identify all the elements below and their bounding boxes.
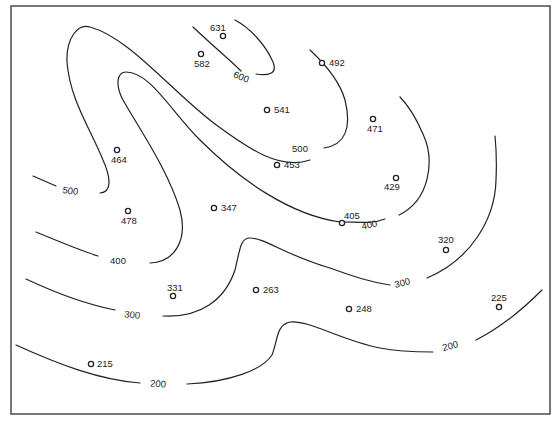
elevation-point: 331 (167, 282, 183, 299)
contour-map: 600500500400400300300200200 631582492541… (0, 0, 557, 425)
point-value-label: 215 (97, 358, 113, 369)
point-marker-icon (198, 51, 203, 56)
elevation-point: 215 (88, 358, 112, 369)
point-marker-icon (370, 116, 375, 121)
contour-label-200: 200 (441, 338, 459, 353)
contour-label-600: 600 (232, 69, 251, 85)
point-marker-icon (496, 304, 501, 309)
elevation-point: 541 (264, 104, 289, 115)
point-value-label: 429 (384, 181, 400, 192)
contour-label-400: 400 (360, 218, 378, 232)
point-value-label: 405 (344, 210, 360, 221)
point-marker-icon (339, 220, 344, 225)
elevation-point: 492 (319, 57, 344, 68)
elevation-point: 347 (211, 202, 236, 213)
point-marker-icon (125, 208, 130, 213)
elevation-point: 429 (384, 175, 400, 192)
contour-line-200 (16, 290, 542, 384)
contour-label-300: 300 (393, 275, 411, 290)
point-marker-icon (264, 107, 269, 112)
elevation-point: 405 (339, 210, 359, 226)
point-marker-icon (114, 147, 119, 152)
contour-label-300: 300 (124, 308, 141, 321)
contour-label-500: 500 (62, 184, 79, 197)
point-value-label: 492 (329, 57, 345, 68)
map-frame (11, 6, 550, 414)
contour-label-500: 500 (292, 143, 308, 154)
point-value-label: 248 (356, 303, 372, 314)
point-value-label: 225 (491, 292, 507, 303)
point-marker-icon (220, 33, 225, 38)
point-value-label: 464 (111, 154, 127, 165)
contour-label-200: 200 (150, 377, 167, 389)
point-value-label: 631 (210, 22, 226, 33)
contour-label-400: 400 (110, 255, 126, 266)
point-marker-icon (274, 162, 279, 167)
point-value-label: 347 (221, 202, 237, 213)
point-marker-icon (319, 60, 324, 65)
elevation-points: 6315824925414714644534294783474053203312… (88, 22, 506, 369)
point-value-label: 263 (263, 284, 279, 295)
point-marker-icon (253, 287, 258, 292)
elevation-point: 263 (253, 284, 278, 295)
elevation-point: 631 (210, 22, 226, 39)
elevation-point: 225 (491, 292, 507, 310)
point-value-label: 541 (274, 104, 290, 115)
point-value-label: 453 (284, 159, 300, 170)
point-marker-icon (170, 293, 175, 298)
point-value-label: 582 (194, 58, 210, 69)
point-marker-icon (346, 306, 351, 311)
point-value-label: 331 (167, 282, 183, 293)
elevation-point: 478 (121, 208, 137, 226)
point-value-label: 320 (438, 234, 454, 245)
contour-line-300 (26, 136, 496, 316)
point-marker-icon (211, 205, 216, 210)
elevation-point: 471 (367, 116, 383, 134)
elevation-point: 582 (194, 51, 210, 69)
elevation-point: 320 (438, 234, 454, 253)
elevation-point: 248 (346, 303, 371, 314)
elevation-point: 464 (111, 147, 127, 165)
contour-labels: 600500500400400300300200200 (62, 69, 459, 390)
point-marker-icon (443, 247, 448, 252)
contour-line-400 (36, 72, 429, 263)
point-marker-icon (393, 175, 398, 180)
point-marker-icon (88, 361, 93, 366)
point-value-label: 471 (367, 123, 383, 134)
point-value-label: 478 (121, 215, 137, 226)
